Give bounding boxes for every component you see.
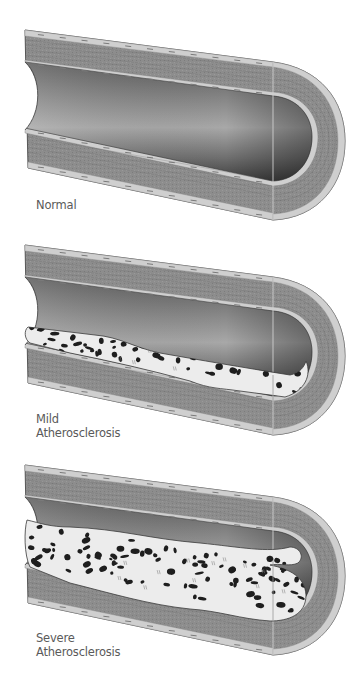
label-mild: MildAtherosclerosis: [36, 413, 120, 440]
vessel-normal: [18, 30, 345, 220]
label-line: Severe: [36, 632, 120, 646]
label-line: Atherosclerosis: [36, 427, 120, 441]
label-normal: Normal: [36, 199, 76, 213]
label-severe: SevereAtherosclerosis: [36, 632, 120, 659]
vessel-severe: [18, 465, 345, 655]
label-line: Mild: [36, 413, 120, 427]
vessel-mild: [18, 245, 345, 435]
label-line: Atherosclerosis: [36, 646, 120, 660]
label-line: Normal: [36, 199, 76, 213]
atherosclerosis-diagram: [0, 0, 362, 681]
